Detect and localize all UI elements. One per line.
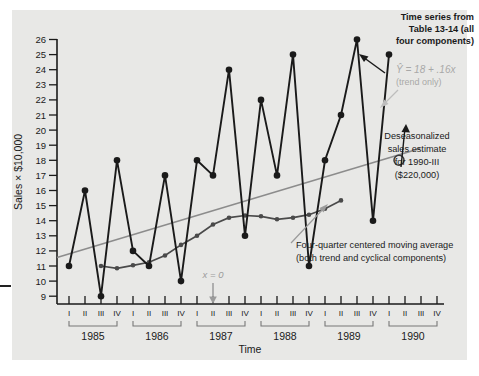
y-tick-label: 22 xyxy=(35,94,46,105)
time-series-chart: 26 25 24 23 22 21 20 19 18 17 16 15 14 1… xyxy=(0,0,479,376)
quarter-label: II xyxy=(147,309,151,318)
year-label: 1986 xyxy=(145,330,169,342)
figure-container: 26 25 24 23 22 21 20 19 18 17 16 15 14 1… xyxy=(0,0,479,376)
deseasonalized-annotation: Deseasonalized sales estimate for 1990-I… xyxy=(384,124,449,180)
annotation-line: Four-quarter centered moving average xyxy=(296,240,453,250)
quarter-label: III xyxy=(418,309,425,318)
quarter-label: IV xyxy=(241,309,249,318)
y-tick-label: 23 xyxy=(35,79,46,90)
y-tick-label: 9 xyxy=(41,291,46,302)
quarter-label: II xyxy=(275,309,279,318)
y-tick-label: 26 xyxy=(35,34,46,45)
y-tick-label: 11 xyxy=(36,261,46,272)
annotation-line: (both trend and cyclical components) xyxy=(296,253,446,263)
y-axis-title: Sales × $10,000 xyxy=(12,134,24,210)
annotation-line: four components) xyxy=(396,36,474,46)
quarter-label: I xyxy=(132,309,134,318)
quarter-label: II xyxy=(403,309,407,318)
quarter-label: II xyxy=(83,309,87,318)
year-label: 1988 xyxy=(273,330,297,342)
y-tick-label: 16 xyxy=(35,185,46,196)
x-zero-label: x = 0 xyxy=(202,269,225,280)
y-tick-label: 10 xyxy=(35,276,46,287)
annotation-leader-line xyxy=(363,57,385,73)
year-braces xyxy=(69,321,437,326)
x-zero-marker: x = 0 xyxy=(202,269,225,304)
y-tick-label: 25 xyxy=(35,49,46,60)
y-axis-tick-labels: 26 25 24 23 22 21 20 19 18 17 16 15 14 1… xyxy=(35,34,46,302)
x-axis-year-labels: 1985 1986 1987 1988 1989 1990 xyxy=(81,330,425,342)
x-axis-title: Time xyxy=(239,343,262,355)
y-tick-label: 19 xyxy=(35,140,46,151)
quarter-label: I xyxy=(196,309,198,318)
y-axis-ticks xyxy=(49,40,57,297)
quarter-label: IV xyxy=(113,309,121,318)
quarter-label: I xyxy=(68,309,70,318)
quarter-label: III xyxy=(354,309,361,318)
year-label: 1985 xyxy=(81,330,105,342)
y-tick-label: 14 xyxy=(35,215,46,226)
y-tick-label: 15 xyxy=(35,200,46,211)
x-axis-quarter-labels: I II III IV I II III IV I II III IV I II… xyxy=(68,309,442,318)
quarter-label: I xyxy=(324,309,326,318)
quarter-label: IV xyxy=(177,309,185,318)
quarter-label: IV xyxy=(369,309,377,318)
quarter-label: I xyxy=(388,309,390,318)
annotation-line: Deseasonalized xyxy=(384,131,449,141)
y-tick-label: 24 xyxy=(35,64,46,75)
annotation-line: Time series from xyxy=(401,12,474,22)
quarter-label: IV xyxy=(305,309,313,318)
y-tick-label: 20 xyxy=(35,125,46,136)
y-tick-label: 12 xyxy=(35,245,46,256)
y-tick-label: 13 xyxy=(35,230,46,241)
annotation-line: sales estimate xyxy=(388,144,447,154)
annotation-line: ($220,000) xyxy=(395,170,439,180)
trend-equation-annotation: Ŷ = 18 + .16x (trend only) xyxy=(380,63,456,108)
quarter-label: II xyxy=(211,309,215,318)
quarter-label: IV xyxy=(433,309,441,318)
quarter-label: III xyxy=(162,309,169,318)
quarter-label: II xyxy=(339,309,343,318)
y-tick-label: 17 xyxy=(35,170,46,181)
quarter-label: I xyxy=(260,309,262,318)
quarter-label: III xyxy=(290,309,297,318)
y-tick-label: 18 xyxy=(35,155,46,166)
year-label: 1990 xyxy=(401,330,425,342)
trend-equation-sub: (trend only) xyxy=(396,77,442,87)
movavg-leader-line xyxy=(291,207,325,243)
x-axis-ticks xyxy=(69,296,437,304)
annotation-line: Table 13-14 (all xyxy=(409,24,474,34)
trend-equation: Ŷ = 18 + .16x xyxy=(396,63,456,75)
quarter-label: III xyxy=(226,309,233,318)
y-tick-label: 21 xyxy=(35,110,46,121)
quarter-label: III xyxy=(98,309,105,318)
year-label: 1989 xyxy=(337,330,361,342)
year-label: 1987 xyxy=(209,330,233,342)
